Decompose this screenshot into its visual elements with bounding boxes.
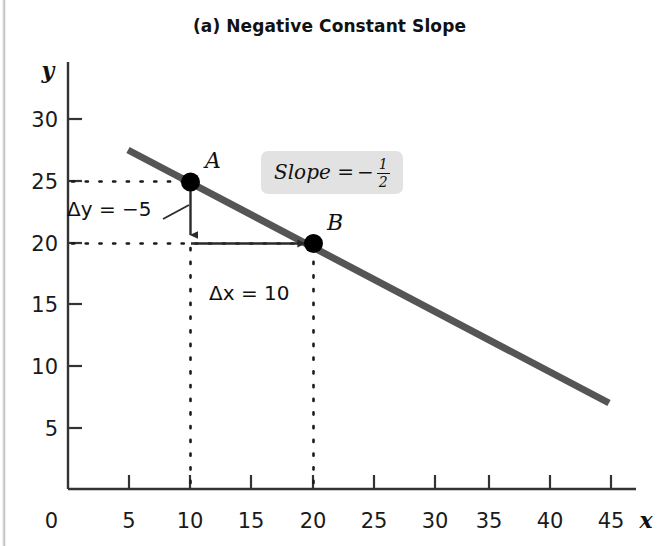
y-axis-ticks — [68, 119, 82, 428]
y-tick-label-30: 30 — [31, 108, 58, 132]
data-point-a-label: A — [203, 148, 221, 173]
y-tick-label-0: 0 — [45, 509, 58, 533]
y-tick-label-20: 20 — [31, 232, 58, 256]
figure-panel: (a) Negative Constant Slope 30 — [0, 0, 659, 546]
slope-fraction: 1 2 — [377, 157, 390, 189]
x-tick-label-35: 35 — [476, 509, 503, 533]
x-tick-label-20: 20 — [300, 509, 327, 533]
slope-sign: − — [357, 162, 374, 182]
slope-numerator: 1 — [377, 157, 390, 174]
y-tick-label-5: 5 — [45, 417, 58, 441]
data-point-a — [181, 173, 200, 192]
x-tick-label-5: 5 — [122, 509, 135, 533]
x-tick-label-15: 15 — [238, 509, 265, 533]
delta-y-annotation: Δy = −5 — [67, 197, 151, 221]
y-tick-label-15: 15 — [31, 293, 58, 317]
x-tick-label-25: 25 — [361, 509, 388, 533]
x-tick-label-10: 10 — [177, 509, 204, 533]
y-tick-label-25: 25 — [31, 170, 58, 194]
delta-y-leader-line — [163, 205, 189, 219]
data-point-b-label: B — [326, 210, 343, 235]
slope-denominator: 2 — [377, 174, 390, 190]
slope-prefix-text: Slope = — [274, 162, 354, 182]
y-tick-label-10: 10 — [31, 355, 58, 379]
delta-x-annotation: Δx = 10 — [209, 281, 289, 305]
x-axis-ticks — [129, 475, 611, 489]
x-axis-label: x — [638, 507, 653, 533]
x-tick-label-30: 30 — [422, 509, 449, 533]
x-tick-label-40: 40 — [537, 509, 564, 533]
x-tick-label-45: 45 — [598, 509, 625, 533]
data-point-b — [304, 234, 323, 253]
slope-callout-box: Slope = − 1 2 — [261, 151, 403, 194]
chart-plot-area: 30 25 20 15 10 5 0 5 10 15 20 25 30 35 4… — [0, 0, 659, 546]
y-axis-label: y — [41, 57, 57, 83]
